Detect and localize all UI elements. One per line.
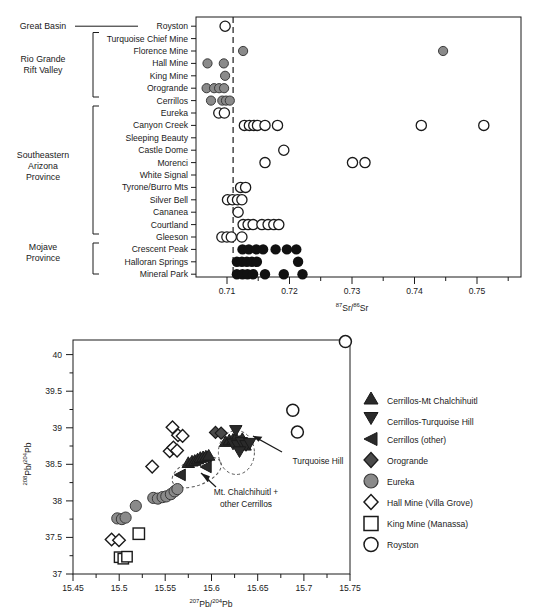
legend-label: Eureka (387, 477, 414, 487)
sr-province-brackets (75, 26, 138, 274)
data-point (339, 336, 351, 348)
sr-row-label: Eureka (161, 108, 188, 118)
bracket-southeastern-arizona (93, 106, 99, 234)
isotope-figure: Royston Turquoise Chief Mine Florence Mi… (0, 0, 537, 609)
bracket-mojave (93, 243, 99, 274)
data-point (291, 426, 303, 438)
data-point (122, 552, 132, 562)
sr-row-label: Courtland (151, 220, 188, 230)
province-label-mojave-line2: Province (26, 253, 60, 263)
province-label-se-arizona-line3: Province (26, 172, 60, 182)
pb-sup-207: 207 (189, 598, 199, 604)
sr-row-label: Castle Dome (138, 145, 188, 155)
legend-marker-open-diamond-icon (364, 495, 378, 510)
sr-row-label: Orogrande (147, 83, 188, 93)
pb-ytick: 38.5 (45, 459, 62, 469)
sr-iso-sr1: Sr/ (342, 303, 354, 313)
sr-row-points-castle-dome (279, 145, 289, 155)
sr-province-labels: Great Basin Rio Grande Rift Valley South… (17, 21, 69, 263)
sr-row-points-king-mine (221, 71, 230, 80)
legend-marker-open-square-icon (364, 517, 378, 531)
sr-x-axis-title: 87Sr/86Sr (336, 302, 369, 313)
pb-ytick: 39 (52, 423, 62, 433)
pb-ytick: 37 (52, 569, 62, 579)
sr-row-points-orogrande (202, 84, 229, 93)
bracket-rio-grande (93, 33, 99, 98)
province-label-mojave-line1: Mojave (29, 242, 57, 252)
data-point (133, 528, 144, 539)
province-label-se-arizona-line1: Southeastern (17, 150, 69, 160)
sr-row-label: Cerrillos (156, 96, 188, 106)
sr-xtick: 0.73 (344, 286, 361, 296)
sr-row-label: White Signal (140, 170, 188, 180)
pb-panel: 37 37.5 38 38.5 39 39.5 40 208Pb/204Pb (22, 336, 361, 609)
sr-row-label: Canyon Creek (133, 120, 189, 130)
legend-marker-filled-triangle-up-icon (364, 392, 378, 404)
legend-marker-filled-triangle-down-icon (364, 413, 378, 425)
sr-row-label: King Mine (150, 71, 188, 81)
annotation-mt-chalchihuitl-line2: other Cerrillos (220, 499, 272, 509)
sr-row-label: Tyrone/Burro Mts (122, 182, 188, 192)
pb-iso-pb1: Pb/ (23, 462, 33, 476)
data-point (130, 500, 141, 511)
data-point (120, 512, 131, 523)
sr-row-points-courtland (238, 220, 284, 230)
sr-x-axis (227, 277, 508, 284)
sr-row-label: Halloran Springs (124, 257, 188, 267)
pb-ytick: 40 (52, 350, 62, 360)
pb-iso-pbx1: Pb/ (199, 599, 213, 609)
annotation-mt-chalchihuitl-line1: Mt. Chalchihuitl + (214, 487, 279, 497)
pb-xtick: 15.5 (111, 583, 128, 593)
sr-row-points-tyrone-burro-mts (236, 182, 251, 192)
pb-x-axis (73, 574, 350, 581)
sr-row-label: Royston (156, 21, 188, 31)
svg-text:208Pb/204Pb: 208Pb/204Pb (22, 442, 33, 485)
annotation-turquoise-hill: Turquoise Hill (293, 456, 344, 466)
legend-label: Cerrillos (other) (387, 435, 446, 445)
legend-label: King Mine (Manassa) (387, 519, 468, 529)
sr-row-label: Silver Bell (150, 195, 188, 205)
legend-marker-gray-circle-icon (364, 474, 378, 488)
sr-xtick: 0.75 (469, 286, 486, 296)
sr-row-label: Turquoise Chief Mine (107, 34, 189, 44)
sr-row-label: Morenci (157, 158, 188, 168)
legend-label: Cerrillos-Turquoise Hill (387, 417, 474, 427)
data-point (287, 404, 299, 416)
sr-row-label: Gleeson (156, 232, 188, 242)
sr-row-points-silver-bell (222, 195, 247, 205)
pb-iso-pbx2: Pb (222, 599, 233, 609)
pb-iso-pb2: Pb (23, 442, 33, 453)
legend-label: Orogrande (387, 456, 428, 466)
figure-svg: Royston Turquoise Chief Mine Florence Mi… (0, 0, 537, 609)
svg-text:207Pb/204Pb: 207Pb/204Pb (189, 598, 232, 609)
sr-row-label: Florence Mine (134, 46, 189, 56)
pb-y-axis (66, 355, 73, 574)
legend-marker-filled-diamond-icon (364, 453, 378, 468)
sr-xtick: 0.71 (219, 286, 236, 296)
legend-label: Royston (387, 540, 419, 550)
pb-legend: Cerrillos-Mt Chalchihuitl Cerrillos-Turq… (364, 392, 478, 552)
legend-marker-open-circle-icon (364, 538, 378, 552)
data-point (172, 484, 183, 495)
pb-x-ticklabels: 15.45 15.5 15.55 15.6 15.65 15.7 15.75 (62, 583, 361, 593)
sr-row-label: Cananea (153, 207, 188, 217)
pb-xtick: 15.65 (247, 583, 269, 593)
sr-xtick: 0.74 (406, 286, 423, 296)
sr-category-axis: Royston Turquoise Chief Mine Florence Mi… (107, 21, 196, 279)
sr-x-ticklabels: 0.71 0.72 0.73 0.74 0.75 (219, 286, 486, 296)
pb-y-axis-title: 208Pb/204Pb (22, 442, 33, 485)
sr-row-points-cananea (233, 207, 243, 217)
pb-xtick: 15.7 (296, 583, 313, 593)
province-label-rio-grande-line2: Rift Valley (24, 65, 64, 75)
sr-row-label: Sleeping Beauty (125, 133, 188, 143)
pb-ytick: 37.5 (45, 532, 62, 542)
legend-label: Cerrillos-Mt Chalchihuitl (387, 396, 478, 406)
province-label-se-arizona-line2: Arizona (28, 161, 58, 171)
sr-iso-sr2: Sr (360, 303, 369, 313)
province-label-great-basin: Great Basin (20, 21, 67, 31)
pb-xtick: 15.75 (339, 583, 361, 593)
pb-y-ticklabels: 37 37.5 38 38.5 39 39.5 40 (45, 350, 62, 579)
province-label-rio-grande-line1: Rio Grande (21, 54, 66, 64)
sr-xtick: 0.72 (281, 286, 298, 296)
pb-xtick: 15.6 (203, 583, 220, 593)
